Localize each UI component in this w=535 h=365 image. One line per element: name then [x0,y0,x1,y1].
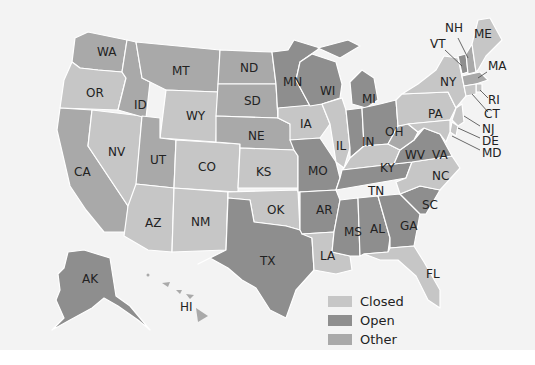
label-IN: IN [362,135,375,149]
open-swatch [328,315,352,326]
state-AK [52,250,150,330]
label-LA: LA [320,249,336,263]
label-OR: OR [86,86,104,100]
label-NV: NV [108,145,126,159]
label-OK: OK [267,203,285,217]
label-UT: UT [150,153,167,167]
label-MS: MS [344,225,362,239]
label-TN: TN [367,184,384,198]
label-AR: AR [316,203,333,217]
label-NC: NC [432,169,449,183]
legend-label-closed: Closed [360,294,404,309]
label-IA: IA [300,117,313,131]
legend-item-closed: Closed [328,292,404,311]
label-CT: CT [484,107,500,121]
label-CO: CO [198,160,216,174]
legend-label-open: Open [360,313,395,328]
label-GA: GA [400,219,418,233]
label-WV: WV [405,148,426,162]
label-ND: ND [240,61,258,75]
label-CA: CA [74,165,91,179]
closed-swatch [328,296,352,307]
label-AK: AK [82,272,99,286]
label-NE: NE [248,129,265,143]
label-KS: KS [256,165,272,179]
label-VT: VT [430,37,446,51]
label-MI: MI [362,92,376,106]
label-TX: TX [259,254,276,268]
label-AL: AL [370,222,385,236]
label-OH: OH [385,125,403,139]
legend-item-open: Open [328,311,404,330]
label-ME: ME [474,27,492,41]
label-RI: RI [488,93,500,107]
label-VA: VA [432,148,448,162]
label-NM: NM [191,215,210,229]
bottom-margin [0,350,535,365]
label-FL: FL [426,267,440,281]
label-KY: KY [380,161,395,175]
label-WA: WA [97,45,117,59]
us-states-map: WA OR CA NV ID MT WY UT AZ CO NM ND SD N… [0,0,535,350]
label-MA: MA [488,59,507,73]
label-MD: MD [482,146,502,160]
state-HI [147,274,209,323]
label-HI: HI [180,300,193,314]
label-SC: SC [422,198,438,212]
label-WY: WY [186,109,206,123]
state-CT [464,84,476,96]
label-PA: PA [428,107,443,121]
label-MN: MN [283,75,302,89]
label-AZ: AZ [145,216,161,230]
label-IL: IL [336,139,347,153]
label-NH: NH [445,21,463,35]
legend-label-other: Other [360,332,397,347]
label-MO: MO [308,164,328,178]
legend-item-other: Other [328,330,404,349]
label-SD: SD [244,94,261,108]
label-ID: ID [134,98,147,112]
label-WI: WI [320,84,335,98]
label-NY: NY [440,75,457,89]
other-swatch [328,334,352,345]
label-MT: MT [172,64,190,78]
map-legend: Closed Open Other [328,292,404,349]
